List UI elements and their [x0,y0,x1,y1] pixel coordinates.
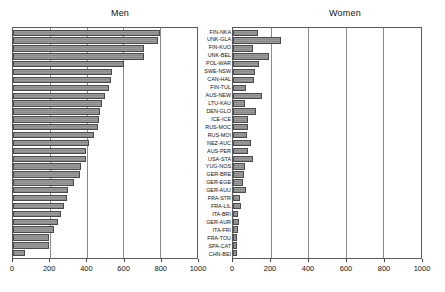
bar-row [13,211,197,217]
category-label: POL-WAR [198,60,231,66]
axis-tick [198,259,199,262]
category-label: SPA-CAT [198,243,231,249]
bar [13,108,100,114]
category-label: GER-EGE [198,179,231,185]
panel-title-men: Men [60,8,180,18]
bar-row [233,140,421,146]
bar [233,69,255,75]
bar [13,93,105,99]
category-label: USA-STA [198,156,231,162]
bar-row [13,250,197,256]
axis-tick-label: 400 [71,264,101,273]
category-label: RUS-MOI [198,132,231,138]
bar-row [13,37,197,43]
category-label: UNK-BEL [198,52,231,58]
bar-row [13,77,197,83]
panel-title-women: Women [285,8,405,18]
bar-row [233,100,421,106]
bar [13,234,49,240]
bar [233,93,262,99]
x-axis-women: 02004006008001000 [232,259,422,281]
bar [13,250,25,256]
bar-row [13,85,197,91]
axis-tick [346,259,347,262]
bar-row [13,30,197,36]
category-label: GER-BRE [198,171,231,177]
bar-row [233,187,421,193]
bar-row [233,61,421,67]
bar [13,140,89,146]
bar [233,203,241,209]
bar [233,226,238,232]
bar [233,30,258,36]
bar-row [233,69,421,75]
category-label: FRA-LIL [198,203,231,209]
bar-rows-women [233,28,421,258]
bar [13,226,54,232]
bar-row [13,61,197,67]
bar-row [13,179,197,185]
bar [233,187,246,193]
bar [233,195,240,201]
bar-row [233,234,421,240]
bar [13,171,80,177]
bar-row [13,116,197,122]
category-label: UNK-GLA [198,36,231,42]
axis-tick-label: 800 [146,264,176,273]
category-label: ITA-FRI [198,227,231,233]
bar [233,132,247,138]
axis-tick-label: 200 [255,264,285,273]
bar [13,195,67,201]
bar-row [233,219,421,225]
bar [233,61,259,67]
bar-row [13,140,197,146]
bar-row [233,226,421,232]
category-label: CHN-BEI [198,251,231,257]
bar [233,45,253,51]
axis-tick [124,259,125,262]
bar [13,116,99,122]
bar-row [13,69,197,75]
bar [233,148,248,154]
category-label: FIN-KUO [198,44,231,50]
bar [233,250,237,256]
category-label: YUG-NOS [198,163,231,169]
category-label: SWE-NSW [198,68,231,74]
axis-tick [232,259,233,262]
bar-row [233,53,421,59]
bar [233,124,248,130]
bar [13,156,86,162]
category-label: LTU-KAU [198,100,231,106]
bar [233,116,248,122]
category-label: DEN-GLO [198,108,231,114]
axis-tick-label: 400 [293,264,323,273]
bar-row [233,124,421,130]
axis-tick [49,259,50,262]
category-label: RUS-MOC [198,124,231,130]
axis-tick [161,259,162,262]
bar-row [13,53,197,59]
bar-row [233,163,421,169]
bar-row [233,37,421,43]
axis-tick [384,259,385,262]
bar [233,77,254,83]
bar-row [13,219,197,225]
axis-tick [308,259,309,262]
bar-row [13,132,197,138]
bar-row [13,187,197,193]
bar [13,37,158,43]
bar-row [233,77,421,83]
x-axis-men: 02004006008001000 [12,259,198,281]
axis-tick-label: 600 [331,264,361,273]
bar-row [233,171,421,177]
bar [233,163,245,169]
category-label: NEZ-AUC [198,140,231,146]
axis-tick-label: 800 [369,264,399,273]
bar [13,132,94,138]
bar [13,203,64,209]
bar [233,234,237,240]
category-label: GER-AUU [198,187,231,193]
axis-tick [12,259,13,262]
plot-area-men [12,27,198,259]
bar-row [13,226,197,232]
